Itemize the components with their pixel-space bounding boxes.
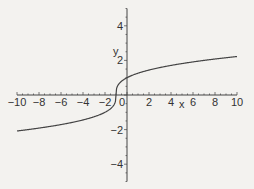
y-tick-label: −2 xyxy=(110,124,123,136)
x-tick-label: −8 xyxy=(33,96,46,108)
x-tick-label: 6 xyxy=(190,96,196,108)
x-tick-labels: −10−8−6−4−20246810 xyxy=(8,96,243,108)
chart: −10−8−6−4−20246810 −4−224 x y xyxy=(0,0,254,189)
x-tick-label: −10 xyxy=(8,96,27,108)
x-tick-label: 0 xyxy=(119,96,125,108)
x-tick-label: −6 xyxy=(55,96,68,108)
x-tick-label: 10 xyxy=(231,96,243,108)
x-axis-label: x xyxy=(179,98,185,110)
x-tick-label: 8 xyxy=(212,96,218,108)
y-tick-label: −4 xyxy=(110,158,123,170)
x-tick-label: 4 xyxy=(168,96,174,108)
x-tick-label: −4 xyxy=(77,96,90,108)
x-tick-label: −2 xyxy=(99,96,112,108)
y-axis-label: y xyxy=(113,45,119,57)
y-tick-label: 4 xyxy=(117,20,123,32)
x-tick-label: 2 xyxy=(146,96,152,108)
